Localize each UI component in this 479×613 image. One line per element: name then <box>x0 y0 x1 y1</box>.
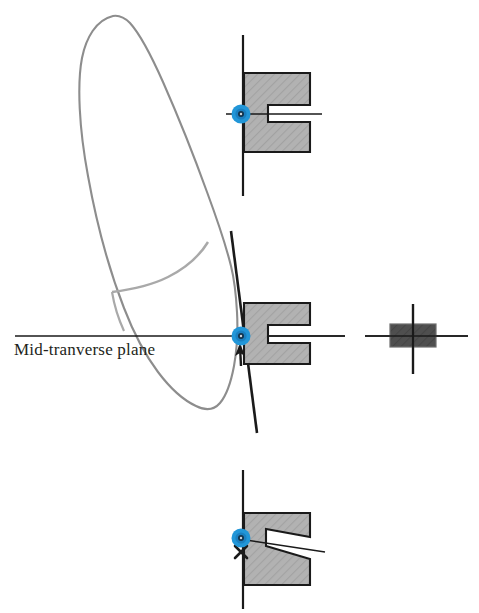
cervical-line-path <box>112 242 208 292</box>
figure-canvas: Mid-tranverse plane <box>0 0 479 613</box>
diagram-bottom-bracket <box>232 470 326 609</box>
diagram-right-marker <box>365 304 468 374</box>
diagram-middle-bracket <box>231 231 345 433</box>
mid-transverse-plane-label: Mid-tranverse plane <box>14 340 155 360</box>
top-bracket-body <box>244 73 310 152</box>
anatomical-diagram-svg <box>0 0 479 613</box>
middle-bracket-body <box>244 303 310 364</box>
bottom-blue-donut-marker-icon <box>232 529 251 548</box>
diagram-top-bracket <box>226 35 322 196</box>
middle-blue-donut-marker-icon <box>232 327 251 346</box>
top-blue-donut-marker-icon <box>232 105 251 124</box>
cervical-line-tail <box>112 292 124 331</box>
